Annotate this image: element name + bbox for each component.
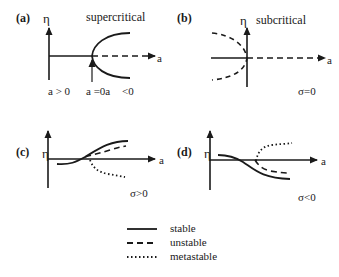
panel-b-condition: σ=0: [298, 86, 316, 97]
panel-d-label: (d): [177, 146, 192, 158]
panel-a-eta-label: η: [43, 12, 50, 25]
panel-a-plot: [49, 28, 155, 82]
panel-c-stable-curve: [57, 141, 128, 164]
legend-unstable-label: unstable: [170, 237, 207, 248]
panel-d-x-label: a: [321, 156, 326, 167]
legend-metastable-label: metastable: [170, 251, 217, 262]
panel-a-annotation-zero: a =0a: [86, 86, 110, 97]
panel-a-x-label: a: [157, 53, 162, 64]
panel-b-unstable-parabola: [212, 33, 247, 80]
panel-c-metastable-curve: [90, 160, 125, 177]
panel-d-condition: σ<0: [298, 192, 316, 203]
panel-b-x-label: a: [327, 55, 332, 66]
panel-b-label: (b): [177, 12, 192, 24]
panel-c-eta-label: η: [42, 147, 49, 160]
panel-a-title: supercritical: [86, 11, 145, 23]
panel-c-unstable-curve: [85, 146, 126, 157]
panel-b-plot: [211, 28, 325, 87]
panel-b-eta-label: η: [240, 14, 247, 27]
panel-d-plot: [210, 131, 317, 190]
legend-swatches: [127, 229, 157, 257]
panel-d-stable-curve: [218, 155, 290, 179]
panel-d-unstable-curve: [255, 160, 290, 173]
panel-d-metastable-curve: [256, 143, 292, 161]
panel-c-condition: σ>0: [130, 188, 148, 199]
panel-a-label: (a): [16, 12, 30, 24]
legend-stable-label: stable: [170, 223, 196, 234]
panel-c-plot: [48, 131, 155, 188]
panel-a-annotation-negative: <0: [122, 86, 134, 97]
panel-b-title: subcritical: [256, 14, 306, 26]
panel-d-eta-label: η: [204, 147, 211, 160]
panel-c-label: (c): [16, 146, 29, 158]
panel-c-x-label: a: [159, 155, 164, 166]
panel-a-annotation-positive: a > 0: [48, 86, 70, 97]
